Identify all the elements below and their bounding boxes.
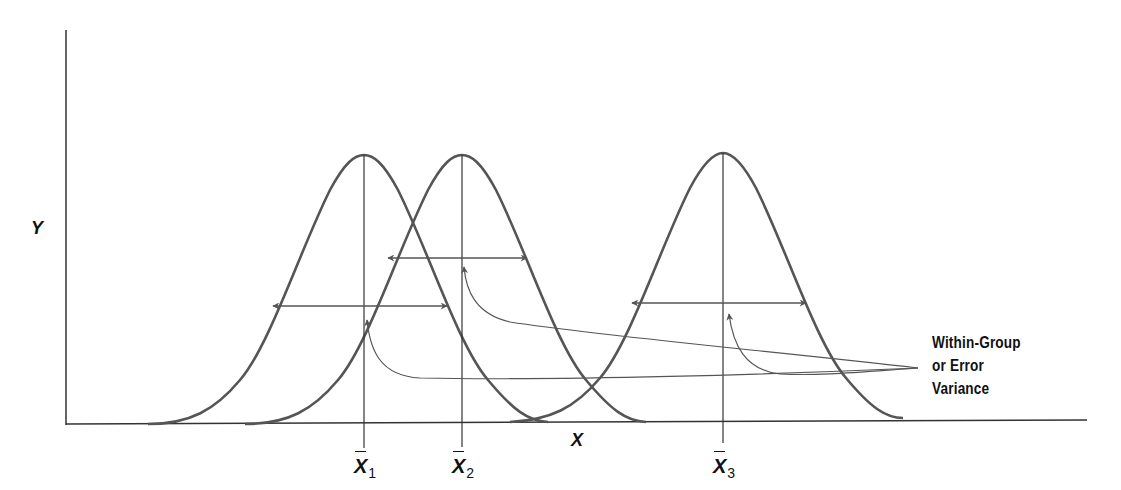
- annotation-line-2: or Error: [932, 354, 1021, 377]
- overline-mark: [453, 451, 464, 452]
- annotation-pointer-1: [367, 320, 918, 379]
- normal-curve-2: [245, 155, 646, 424]
- overline-mark: [355, 451, 366, 452]
- normal-curve-1: [148, 155, 548, 424]
- annotation-pointer-2: [464, 267, 918, 368]
- x-axis: [66, 420, 1087, 424]
- mean-label-3: X3: [713, 456, 735, 483]
- annotation-line-1: Within-Group: [932, 331, 1021, 354]
- mean-label-2: X2: [452, 456, 474, 483]
- x-axis-label: X: [571, 430, 583, 451]
- mean-label-1: X1: [354, 456, 376, 483]
- within-group-variance-label: Within-Group or Error Variance: [932, 331, 1021, 400]
- annotation-line-3: Variance: [932, 377, 1021, 400]
- overline-mark: [714, 451, 725, 452]
- normal-curve-3: [510, 153, 903, 422]
- variance-diagram: [0, 0, 1121, 490]
- y-axis-label: Y: [31, 218, 43, 239]
